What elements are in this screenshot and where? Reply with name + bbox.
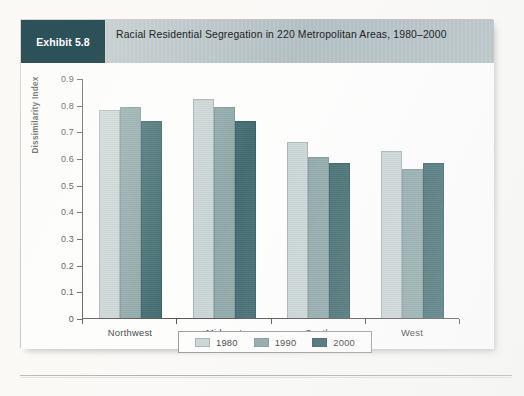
y-tick-label: 0.3 xyxy=(61,234,74,244)
chart-area: Dissimilarity Index 0.90.80.70.60.50.40.… xyxy=(21,63,494,349)
bar-group: South xyxy=(271,79,365,318)
page-divider-rule-highlight xyxy=(20,377,512,378)
bar-west-1980 xyxy=(381,151,402,318)
legend-swatch-2000 xyxy=(312,338,327,347)
bar-group: Northwest xyxy=(83,79,177,318)
y-tick-label: 0.9 xyxy=(61,74,74,84)
y-tick-label: 0.5 xyxy=(61,181,74,191)
bar-group: West xyxy=(365,79,459,318)
legend-swatch-1990 xyxy=(254,338,269,347)
y-tick-label: 0.7 xyxy=(61,127,74,137)
y-tick-mark xyxy=(77,212,82,213)
bar-midwest-1980 xyxy=(193,99,214,318)
x-tick-mark xyxy=(271,319,272,324)
y-tick-label: 0 xyxy=(69,314,74,324)
bar-northwest-1990 xyxy=(120,107,141,318)
page-divider-rule xyxy=(20,375,512,376)
exhibit-card: Exhibit 5.8 Racial Residential Segregati… xyxy=(20,19,493,348)
x-tick-mark xyxy=(176,319,177,324)
legend-label-1990: 1990 xyxy=(275,337,297,348)
y-tick-label: 0.2 xyxy=(61,261,74,271)
plot-region: 0.90.80.70.60.50.40.30.20.10 NorthwestMi… xyxy=(82,79,459,319)
bar-set xyxy=(381,79,444,318)
y-tick-mark xyxy=(77,106,82,107)
exhibit-header: Exhibit 5.8 Racial Residential Segregati… xyxy=(21,20,494,63)
exhibit-title: Racial Residential Segregation in 220 Me… xyxy=(105,20,494,63)
bar-midwest-2000 xyxy=(235,121,256,318)
legend-item-1990: 1990 xyxy=(254,337,297,348)
legend-label-2000: 2000 xyxy=(333,337,355,348)
y-tick-mark xyxy=(77,159,82,160)
chart-legend: 198019902000 xyxy=(178,331,372,353)
legend-item-2000: 2000 xyxy=(312,337,355,348)
bar-set xyxy=(193,79,256,318)
bar-south-2000 xyxy=(329,163,350,318)
y-tick-mark xyxy=(77,132,82,133)
y-tick-mark xyxy=(77,239,82,240)
bar-group: Midwest xyxy=(177,79,271,318)
bar-northwest-2000 xyxy=(141,121,162,318)
legend-item-1980: 1980 xyxy=(195,337,238,348)
exhibit-number-tag: Exhibit 5.8 xyxy=(21,20,105,63)
x-tick-label: Northwest xyxy=(108,327,152,338)
x-tick-mark xyxy=(365,319,366,324)
y-tick-label: 0.4 xyxy=(61,207,74,217)
y-tick-label: 0.1 xyxy=(61,287,74,297)
x-tick-mark xyxy=(82,319,83,324)
bar-set xyxy=(99,79,162,318)
y-tick-mark xyxy=(77,79,82,80)
bar-south-1980 xyxy=(287,142,308,318)
bar-groups: NorthwestMidwestSouthWest xyxy=(83,79,459,318)
bar-south-1990 xyxy=(308,157,329,318)
legend-label-1980: 1980 xyxy=(216,337,238,348)
bar-northwest-1980 xyxy=(99,110,120,318)
y-tick-mark xyxy=(77,292,82,293)
bar-west-1990 xyxy=(402,169,423,318)
exhibit-page: Exhibit 5.8 Racial Residential Segregati… xyxy=(0,0,524,396)
bar-set xyxy=(287,79,350,318)
y-tick-mark xyxy=(77,186,82,187)
bar-west-2000 xyxy=(423,163,444,318)
legend-swatch-1980 xyxy=(195,338,210,347)
y-tick-label: 0.8 xyxy=(61,101,74,111)
y-tick-label: 0.6 xyxy=(61,154,74,164)
x-tick-label: West xyxy=(401,327,423,338)
y-tick-mark xyxy=(77,266,82,267)
bar-midwest-1990 xyxy=(214,107,235,318)
y-axis-title: Dissimilarity Index xyxy=(31,55,40,175)
x-tick-mark xyxy=(459,319,460,324)
